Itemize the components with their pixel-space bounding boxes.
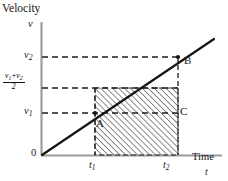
point-marker-B xyxy=(176,55,180,59)
y-tick-v-average-numerator: v1+v2 xyxy=(3,72,25,81)
origin-label: 0 xyxy=(31,148,36,159)
y-tick-label-v2: v2 xyxy=(24,50,33,62)
v-average-num-sub2: 2 xyxy=(20,75,23,81)
y-tick-v2-sub: 2 xyxy=(29,53,33,62)
y-axis-symbol: v xyxy=(28,19,33,30)
y-tick-v1-sub: 1 xyxy=(29,109,33,118)
y-axis-title: Velocity xyxy=(2,3,40,15)
y-tick-label-v-average: v1+v2 2 xyxy=(3,72,25,92)
x-tick-label-t1: t1 xyxy=(89,160,95,171)
point-marker-A xyxy=(93,111,97,115)
x-tick-t2-sub: 2 xyxy=(166,163,170,172)
y-tick-v-average-denominator: 2 xyxy=(3,83,25,92)
x-tick-t1-sub: 1 xyxy=(92,163,96,172)
hatched-area-rect xyxy=(95,88,178,155)
point-label-A: A xyxy=(96,118,104,129)
y-tick-label-v1: v1 xyxy=(24,106,33,118)
point-label-B: B xyxy=(184,55,191,66)
point-label-C: C xyxy=(180,106,187,117)
velocity-time-figure: Velocity v Time t 0 v2 v1+v2 2 v1 t1 t2 … xyxy=(0,0,228,181)
x-axis-title: Time xyxy=(192,152,214,163)
x-tick-label-t2: t2 xyxy=(163,160,169,171)
x-axis-symbol: t xyxy=(205,167,208,177)
